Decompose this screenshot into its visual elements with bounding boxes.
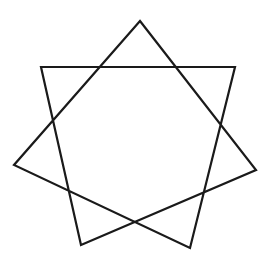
heptagram-star-shape [14, 21, 256, 248]
diagram-canvas [0, 0, 270, 265]
heptagram-svg [0, 0, 270, 265]
